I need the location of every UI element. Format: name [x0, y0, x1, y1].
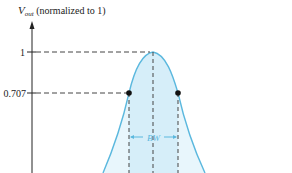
tick-label-1: 1 [20, 47, 25, 58]
tick-label-0707: 0.707 [4, 88, 27, 99]
bw-label: BW [147, 133, 161, 143]
half-power-point-right [175, 90, 181, 96]
bandwidth-chart: Vout (normalized to 1) 1 0.707 BW [0, 0, 292, 173]
y-axis-arrow-icon [30, 21, 35, 29]
y-axis-label: Vout (normalized to 1) [18, 4, 106, 18]
half-power-point-left [126, 90, 132, 96]
